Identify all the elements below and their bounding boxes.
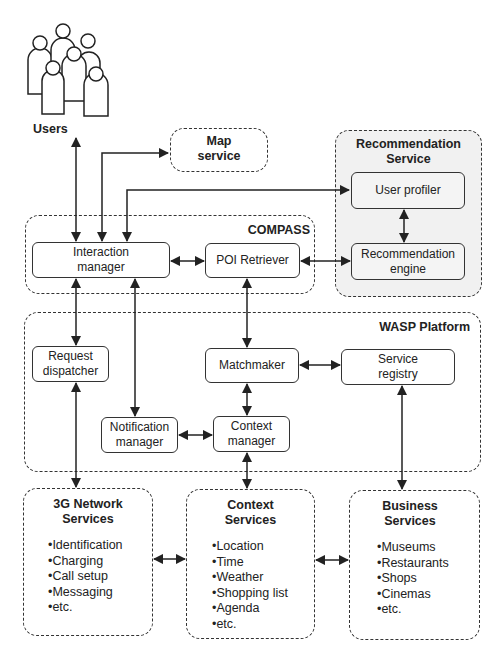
- architecture-diagram: Users Map service Recommendation Service…: [0, 0, 502, 658]
- connection-arrows: [0, 0, 502, 658]
